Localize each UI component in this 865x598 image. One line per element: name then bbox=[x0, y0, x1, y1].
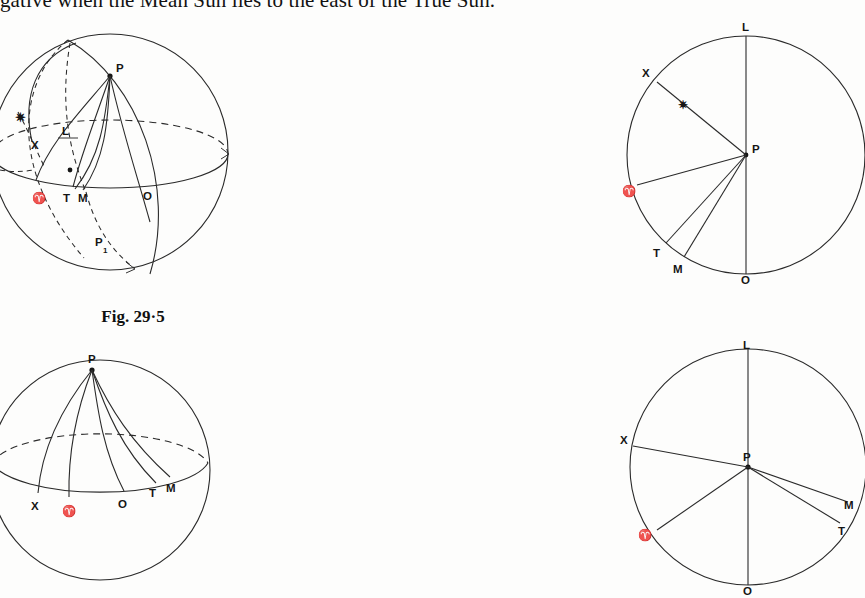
label-M: M bbox=[166, 482, 176, 494]
radius-to-M bbox=[748, 467, 848, 502]
star-glyph-icon: ✷ bbox=[678, 98, 688, 112]
meridian-to-O bbox=[92, 370, 124, 491]
label-aries: ♈ bbox=[622, 184, 636, 198]
radius-to-M bbox=[684, 155, 746, 257]
sphere-outline bbox=[0, 34, 228, 270]
radius-to-T bbox=[666, 155, 746, 243]
document-page: gative when the Mean Sun lies to the eas… bbox=[0, 0, 865, 598]
label-aries: ♈ bbox=[638, 528, 652, 542]
label-T: T bbox=[653, 247, 660, 259]
figure-29-8: P L O X ♈ T M bbox=[600, 345, 855, 595]
label-P1-subscript: 1 bbox=[103, 246, 108, 255]
figure-29-5-drawing: P ✷ L X ♈ T bbox=[0, 22, 260, 284]
label-M: M bbox=[673, 263, 683, 275]
radius-to-aries bbox=[657, 467, 748, 530]
radius-to-aries bbox=[637, 155, 746, 185]
label-L: L bbox=[743, 339, 750, 351]
radius-to-X bbox=[657, 82, 746, 155]
meridian-to-aries bbox=[69, 370, 92, 497]
label-M: M bbox=[78, 192, 88, 204]
curve-to-P1 bbox=[86, 192, 134, 268]
figure-29-6: P ✷ L O X ♈ T M Fig. 29·6 bbox=[600, 22, 855, 284]
label-P: P bbox=[88, 353, 96, 365]
radius-to-X bbox=[633, 446, 748, 467]
label-O: O bbox=[741, 274, 750, 286]
hour-circle-to-X bbox=[36, 76, 110, 180]
meridian-to-M bbox=[92, 370, 170, 477]
label-O: O bbox=[743, 585, 752, 597]
label-T: T bbox=[838, 525, 845, 537]
label-T: T bbox=[149, 487, 156, 499]
figure-29-8-drawing: P L O X ♈ T M bbox=[600, 345, 855, 595]
rear-equator-stub bbox=[0, 170, 34, 172]
label-P1: P bbox=[95, 236, 103, 248]
label-X: X bbox=[642, 67, 650, 79]
hour-circle-to-M bbox=[83, 76, 110, 190]
label-T: T bbox=[63, 192, 70, 204]
label-X: X bbox=[31, 500, 39, 512]
meridian-to-X bbox=[38, 370, 92, 493]
label-L: L bbox=[62, 125, 69, 137]
label-M: M bbox=[844, 499, 854, 511]
P1-arrow bbox=[126, 262, 135, 273]
figure-29-7-drawing: P X ♈ O T M bbox=[0, 345, 260, 595]
figure-29-5: P ✷ L X ♈ T bbox=[0, 22, 260, 284]
figure-29-6-drawing: P ✷ L O X ♈ T M bbox=[600, 22, 855, 284]
radius-to-T bbox=[748, 467, 840, 523]
label-O: O bbox=[118, 498, 127, 510]
label-O: O bbox=[143, 190, 152, 202]
label-aries: ♈ bbox=[32, 191, 46, 205]
label-X: X bbox=[620, 434, 628, 446]
label-aries: ♈ bbox=[62, 504, 76, 518]
figure-29-5-caption: Fig. 29·5 bbox=[101, 307, 164, 327]
label-P: P bbox=[743, 451, 751, 463]
marker-dot-T bbox=[68, 168, 73, 173]
star-glyph-icon: ✷ bbox=[15, 110, 26, 125]
label-L: L bbox=[742, 21, 749, 33]
figure-29-7: P X ♈ O T M bbox=[0, 345, 260, 595]
label-P: P bbox=[752, 143, 760, 155]
body-text-line: gative when the Mean Sun lies to the eas… bbox=[0, 0, 865, 13]
label-X: X bbox=[31, 139, 39, 151]
sphere-outline bbox=[0, 360, 210, 580]
equator-front bbox=[0, 463, 208, 492]
label-P: P bbox=[116, 62, 124, 74]
equator-front bbox=[0, 154, 228, 188]
